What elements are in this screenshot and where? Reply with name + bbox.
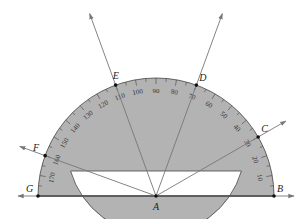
label-G: G (26, 183, 33, 194)
label-E: E (112, 70, 119, 81)
label-A: A (152, 201, 160, 212)
scale-label: 90 (153, 87, 161, 95)
point-E (114, 83, 118, 87)
point-B (272, 194, 276, 198)
label-B: B (277, 183, 283, 194)
protractor-diagram: 1020304050607080901001101201301401501601… (0, 0, 307, 219)
point-D (195, 83, 199, 87)
label-C: C (261, 123, 268, 134)
label-D: D (198, 72, 207, 83)
point-A (154, 194, 158, 198)
point-F (43, 154, 47, 158)
label-F: F (32, 142, 40, 153)
point-G (36, 194, 40, 198)
point-C (256, 135, 260, 139)
